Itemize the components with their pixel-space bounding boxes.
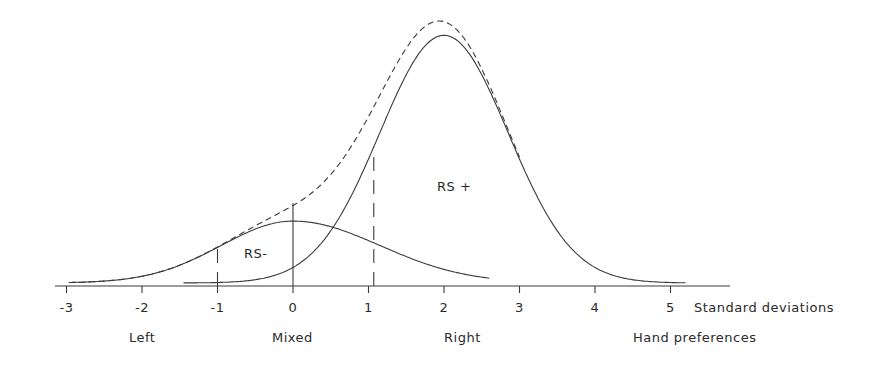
x-tick-label: 4	[591, 300, 600, 315]
hand-preferences-label: Hand preferences	[633, 330, 756, 345]
x-tick-label: -2	[135, 300, 149, 315]
rs-distribution-figure: -3-2-1012345 RS- RS + Standard deviation…	[0, 0, 872, 366]
x-tick-label: 2	[440, 300, 449, 315]
x-tick-label: 0	[289, 300, 298, 315]
category-mixed-label: Mixed	[272, 330, 313, 345]
x-tick-label: -3	[60, 300, 74, 315]
x-tick-label: 3	[515, 300, 524, 315]
chart-canvas: -3-2-1012345 RS- RS + Standard deviation…	[0, 0, 872, 366]
category-left-label: Left	[129, 330, 155, 345]
x-axis-ticks: -3-2-1012345	[60, 286, 675, 315]
x-tick-label: -1	[211, 300, 225, 315]
category-right-label: Right	[444, 330, 481, 345]
x-tick-label: 5	[666, 300, 675, 315]
x-axis-title: Standard deviations	[694, 300, 834, 315]
rs-plus-label: RS +	[437, 179, 471, 194]
rs-minus-label: RS-	[244, 246, 267, 261]
sum-dashed-curve	[69, 21, 520, 283]
x-tick-label: 1	[364, 300, 373, 315]
